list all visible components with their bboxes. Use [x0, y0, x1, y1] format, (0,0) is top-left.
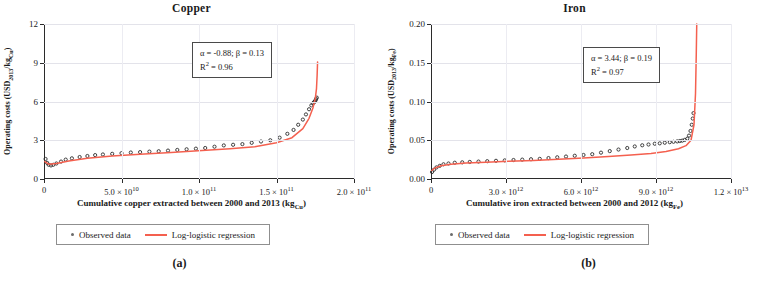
gridline-vertical [731, 24, 732, 179]
y-tick-mark [40, 63, 44, 64]
scatter-marker-icon [450, 233, 453, 236]
data-point [608, 150, 611, 153]
annotation-box-iron: α = 3.44; β = 0.19 R2 = 0.97 [583, 47, 660, 83]
panel-title-copper: Copper [0, 2, 383, 14]
data-point [633, 145, 636, 148]
data-point [582, 153, 585, 156]
data-point [94, 154, 97, 157]
x-axis-title-copper: Cumulative copper extracted between 2000… [0, 198, 383, 210]
y-axis-title-iron: Operating costs (USD2013/kgFe) [385, 24, 399, 179]
data-point [157, 150, 160, 153]
panel-iron: Iron Operating costs (USD2013/kgFe) 0.00… [383, 0, 766, 281]
data-point [626, 146, 629, 149]
data-point [599, 151, 602, 154]
y-tick-label: 0.15 [409, 58, 425, 68]
data-point [292, 128, 295, 131]
data-point [647, 143, 650, 146]
x-tick-mark [199, 179, 200, 183]
plot-area-iron: 0.000.050.100.150.2003.0 × 10126.0 × 101… [431, 24, 731, 179]
y-tick-mark [40, 102, 44, 103]
x-tick-label: 9.0 × 1012 [639, 185, 674, 197]
data-point [663, 141, 666, 144]
data-point [194, 147, 197, 150]
legend-entry-regression-copper: Log-logistic regression [145, 230, 255, 240]
x-tick-label: 1.0 × 1011 [182, 185, 216, 197]
x-axis-title-iron: Cumulative iron extracted between 2000 a… [383, 198, 766, 210]
annotation-params-iron: α = 3.44; β = 0.19 [591, 52, 652, 64]
data-point [641, 144, 644, 147]
legend-copper: Observed data Log-logistic regression [56, 224, 270, 245]
data-point [185, 148, 188, 151]
panel-title-iron: Iron [383, 2, 766, 14]
data-point [166, 149, 169, 152]
data-point [241, 143, 244, 146]
x-tick-mark [354, 179, 355, 183]
y-tick-label: 9 [34, 58, 39, 68]
scatter-marker-icon [71, 233, 74, 236]
data-point [658, 142, 661, 145]
gridline-vertical [277, 24, 278, 179]
annotation-r2-iron: R2 = 0.97 [591, 64, 652, 78]
annotation-r2-copper: R2 = 0.96 [200, 59, 264, 73]
data-point [44, 157, 47, 160]
legend-label-regression-iron: Log-logistic regression [551, 230, 634, 240]
line-swatch-icon [524, 234, 546, 236]
x-tick-label: 0 [429, 185, 433, 195]
data-point [250, 141, 253, 144]
data-point [591, 153, 594, 156]
data-point [86, 154, 89, 157]
x-tick-label: 1.5 × 1011 [259, 185, 293, 197]
data-point [232, 143, 235, 146]
data-point [573, 154, 576, 157]
data-point [78, 155, 81, 158]
x-tick-mark [277, 179, 278, 183]
x-tick-mark [122, 179, 123, 183]
y-tick-label: 0.20 [409, 19, 425, 29]
x-tick-mark [731, 179, 732, 183]
legend-label-regression-copper: Log-logistic regression [172, 230, 255, 240]
y-tick-label: 0.10 [409, 97, 425, 107]
y-tick-mark [427, 140, 431, 141]
y-tick-label: 0 [34, 174, 39, 184]
legend-entry-observed-copper: Observed data [71, 230, 131, 240]
legend-entry-regression-iron: Log-logistic regression [524, 230, 634, 240]
y-tick-mark [40, 24, 44, 25]
panel-copper: Copper Operating costs (USD2013/kgCu) 03… [0, 0, 383, 281]
x-tick-mark [656, 179, 657, 183]
x-tick-mark [506, 179, 507, 183]
regression-curve [432, 24, 697, 170]
gridline-vertical [122, 24, 123, 179]
data-point [301, 118, 304, 121]
data-point [222, 144, 225, 147]
y-tick-label: 6 [34, 97, 39, 107]
x-tick-mark [44, 179, 45, 183]
y-tick-label: 3 [34, 135, 39, 145]
x-tick-mark [431, 179, 432, 183]
data-point [689, 129, 692, 132]
data-point [690, 123, 693, 126]
y-tick-mark [40, 140, 44, 141]
y-tick-label: 12 [29, 19, 38, 29]
data-point [111, 152, 114, 155]
data-point [687, 134, 690, 137]
data-point [307, 108, 310, 111]
x-tick-label: 6.0 × 1012 [564, 185, 599, 197]
annotation-params-copper: α = -0.88; β = 0.13 [200, 47, 264, 59]
y-axis-title-copper: Operating costs (USD2013/kgCu) [2, 24, 16, 179]
data-point [304, 113, 307, 116]
y-tick-mark [427, 63, 431, 64]
legend-iron: Observed data Log-logistic regression [435, 224, 649, 245]
data-point [297, 123, 300, 126]
legend-label-observed-copper: Observed data [79, 230, 131, 240]
data-point [70, 157, 73, 160]
gridline-vertical [354, 24, 355, 179]
x-tick-label: 2.0 × 1011 [337, 185, 371, 197]
data-point [139, 151, 142, 154]
x-tick-label: 0 [42, 185, 46, 195]
legend-entry-observed-iron: Observed data [450, 230, 510, 240]
data-point [148, 150, 151, 153]
y-tick-label: 0.00 [409, 174, 425, 184]
data-point [101, 153, 104, 156]
x-tick-label: 3.0 × 1012 [489, 185, 524, 197]
annotation-box-copper: α = -0.88; β = 0.13 R2 = 0.96 [192, 42, 272, 78]
